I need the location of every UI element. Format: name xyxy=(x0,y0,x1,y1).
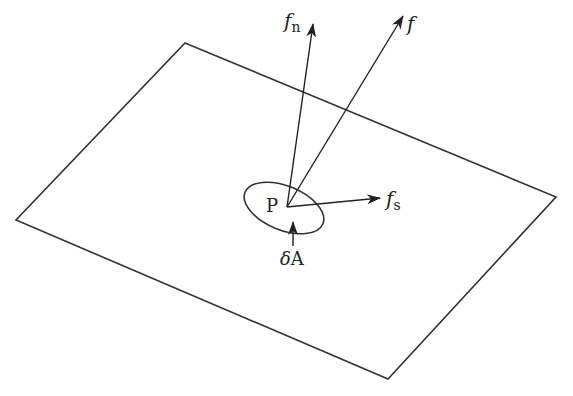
normal-force-arrow xyxy=(287,24,313,207)
label-fn: fn xyxy=(282,9,300,35)
surface-plane xyxy=(16,43,556,379)
total-force-arrow xyxy=(287,16,403,207)
label-dA: δA xyxy=(280,248,305,269)
label-f: f xyxy=(405,12,418,36)
stress-diagram: fn f fs P δA xyxy=(0,0,573,396)
label-fs: fs xyxy=(384,187,401,213)
label-P: P xyxy=(266,195,278,216)
shear-force-arrow xyxy=(287,198,380,207)
area-element-ellipse xyxy=(237,172,331,244)
